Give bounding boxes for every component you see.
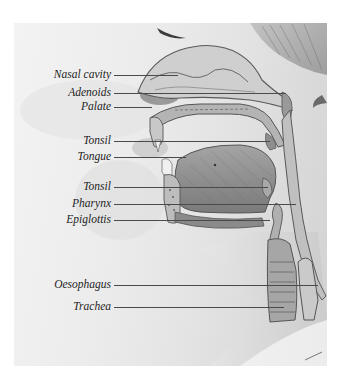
- leader-line-pharynx: [114, 204, 296, 205]
- ear: [313, 95, 327, 108]
- label-oesophagus: Oesophagus: [54, 278, 111, 290]
- leader-line-nasal-cavity: [114, 75, 178, 76]
- leader-line-epiglottis: [114, 220, 270, 221]
- label-tonsil-upper: Tonsil: [83, 134, 111, 146]
- label-nasal-cavity: Nasal cavity: [54, 68, 111, 80]
- eye: [157, 28, 186, 38]
- label-tonsil-lower: Tonsil: [83, 180, 111, 192]
- leader-line-trachea: [114, 307, 284, 308]
- leader-line-oesophagus: [114, 285, 318, 286]
- label-trachea: Trachea: [73, 300, 111, 312]
- leader-line-tonsil-upper: [114, 141, 270, 142]
- label-adenoids: Adenoids: [68, 86, 111, 98]
- hair: [250, 23, 327, 75]
- leader-line-tonsil-lower: [114, 187, 268, 188]
- tongue: [175, 145, 276, 213]
- leader-line-adenoids: [114, 93, 286, 94]
- label-pharynx: Pharynx: [72, 197, 111, 209]
- leader-line-palate: [114, 107, 152, 108]
- label-tongue: Tongue: [78, 150, 111, 162]
- label-palate: Palate: [81, 100, 111, 112]
- label-epiglottis: Epiglottis: [66, 213, 111, 225]
- leader-line-tongue: [114, 157, 186, 158]
